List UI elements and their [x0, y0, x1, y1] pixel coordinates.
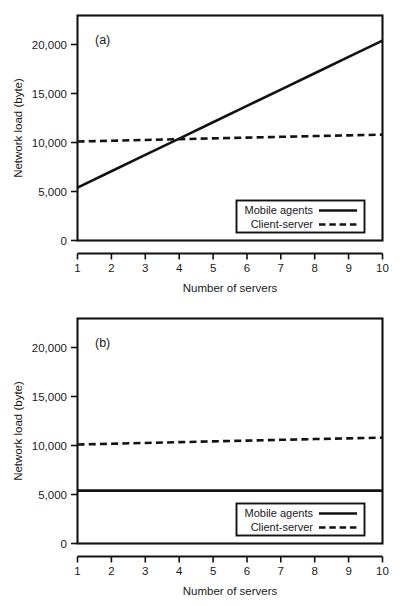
y-tick-label-10000-b: 10,000 — [32, 440, 67, 452]
y-tick-label-0-a: 0 — [61, 235, 67, 247]
x-tick-label-10-b: 10 — [376, 565, 389, 577]
x-tick-label-10-a: 10 — [376, 262, 389, 274]
legend-label-mobile-agents-a: Mobile agents — [245, 204, 314, 216]
series-line-client-server-a — [78, 135, 383, 142]
x-tick-label-1-a: 1 — [74, 262, 80, 274]
legend-a[interactable]: Mobile agents Client-server — [237, 201, 365, 233]
x-tick-label-6-b: 6 — [244, 565, 250, 577]
x-tick-label-4-b: 4 — [176, 565, 183, 577]
y-axis-title-a: Network load (byte) — [12, 78, 24, 178]
y-tick-label-10000-a: 10,000 — [32, 137, 67, 149]
y-tick-label-20000-a: 20,000 — [32, 39, 67, 51]
x-tick-label-2-a: 2 — [108, 262, 114, 274]
x-tick-label-5-a: 5 — [210, 262, 216, 274]
y-tick-label-15000-a: 15,000 — [32, 88, 67, 100]
y-tick-label-0-b: 0 — [61, 538, 67, 550]
panel-tag-b: (b) — [95, 336, 110, 350]
panel-tag-a: (a) — [95, 33, 110, 47]
chart-panel-a: 0 5,000 10,000 15,000 20,000 Network loa… — [0, 0, 404, 303]
x-axis-title-a: Number of servers — [183, 282, 278, 294]
x-tick-label-9-a: 9 — [345, 262, 351, 274]
x-tick-label-3-b: 3 — [142, 565, 148, 577]
y-tick-label-20000-b: 20,000 — [32, 342, 67, 354]
x-tick-label-4-a: 4 — [176, 262, 183, 274]
x-tick-label-7-a: 7 — [278, 262, 284, 274]
x-tick-label-7-b: 7 — [278, 565, 284, 577]
x-tick-label-2-b: 2 — [108, 565, 114, 577]
figure-container: 0 5,000 10,000 15,000 20,000 Network loa… — [0, 0, 404, 606]
x-axis-title-b: Number of servers — [183, 585, 278, 597]
x-tick-label-5-b: 5 — [210, 565, 216, 577]
legend-label-mobile-agents-b: Mobile agents — [245, 507, 314, 519]
x-tick-label-3-a: 3 — [142, 262, 148, 274]
chart-panel-b: 0 5,000 10,000 15,000 20,000 Network loa… — [0, 303, 404, 606]
x-tick-label-8-b: 8 — [311, 565, 317, 577]
x-tick-label-1-b: 1 — [74, 565, 80, 577]
x-tick-label-6-a: 6 — [244, 262, 250, 274]
y-axis-title-b: Network load (byte) — [12, 381, 24, 481]
series-line-mobile-agents-a — [78, 41, 383, 188]
legend-label-client-server-a: Client-server — [251, 218, 314, 230]
legend-label-client-server-b: Client-server — [251, 521, 314, 533]
y-tick-label-15000-b: 15,000 — [32, 391, 67, 403]
y-tick-label-5000-b: 5,000 — [38, 489, 67, 501]
y-tick-label-5000-a: 5,000 — [38, 186, 67, 198]
x-tick-label-9-b: 9 — [345, 565, 351, 577]
x-tick-label-8-a: 8 — [311, 262, 317, 274]
legend-b[interactable]: Mobile agents Client-server — [237, 504, 365, 536]
series-line-client-server-b — [78, 438, 383, 445]
